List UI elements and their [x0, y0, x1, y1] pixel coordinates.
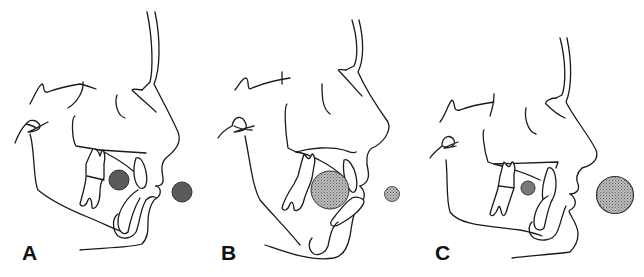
pterygoid-line: [285, 104, 356, 153]
panel-a: [15, 12, 192, 250]
extraoral-circle: [172, 182, 192, 202]
orbit: [525, 108, 536, 134]
cranial-base-line: [235, 72, 290, 90]
orbit: [322, 84, 330, 114]
lower-incisor: [534, 196, 552, 230]
panel-label-b: B: [221, 241, 236, 265]
upper-molar: [490, 162, 515, 216]
panel-c: [430, 38, 634, 258]
nasal-bone: [546, 98, 565, 118]
pterygoid-line: [483, 130, 558, 168]
pterygoid-line: [72, 116, 146, 153]
extraoral-circle: [597, 177, 634, 214]
extraoral-circle: [385, 187, 400, 202]
panel-label-a: A: [22, 241, 37, 265]
lower-incisor: [118, 190, 140, 234]
upper-molar: [80, 149, 105, 208]
cranial-base-line: [440, 94, 494, 122]
cranial-base-line: [30, 82, 96, 108]
upper-molar: [282, 154, 315, 211]
nasal-bone: [132, 89, 156, 112]
ear-rod: [218, 117, 254, 138]
soft-tissue-profile: [265, 20, 389, 259]
symphysis: [309, 222, 338, 255]
panel-b: [218, 20, 400, 259]
intraoral-circle: [521, 181, 535, 195]
panel-label-c: C: [435, 241, 450, 265]
soft-tissue-profile: [512, 38, 597, 258]
intraoral-circle: [109, 170, 129, 190]
ear-rod: [430, 137, 458, 158]
upper-incisor: [134, 158, 147, 189]
orbit: [116, 95, 125, 118]
cephalometric-figure: [0, 0, 644, 277]
mandible-outline: [446, 160, 542, 236]
intraoral-circle: [311, 171, 349, 209]
